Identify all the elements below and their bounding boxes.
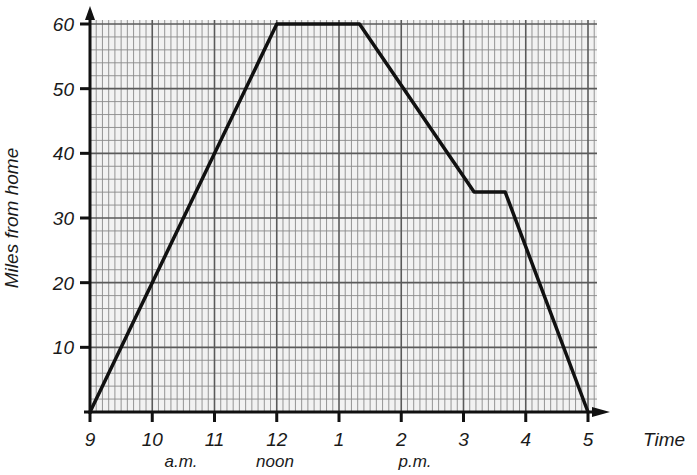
y-tick-label: 50 <box>53 79 75 100</box>
x-tick-label: 5 <box>583 429 594 450</box>
x-ticks: 910111212345 <box>85 412 594 450</box>
y-axis-label: Miles from home <box>1 148 22 288</box>
y-tick-label: 10 <box>53 337 75 358</box>
x-tick-label: 9 <box>85 429 96 450</box>
y-tick-label: 30 <box>53 208 75 229</box>
x-tick-label: 1 <box>334 429 345 450</box>
x-axis-arrow-icon <box>592 407 610 417</box>
am-label: a.m. <box>164 452 197 471</box>
pm-label: p.m. <box>397 452 431 471</box>
distance-time-chart: 102030405060 910111212345 Miles from hom… <box>0 0 697 475</box>
x-tick-label: 4 <box>520 429 531 450</box>
plot-area <box>90 20 597 412</box>
y-tick-label: 60 <box>53 14 75 35</box>
x-axis-label: Time <box>643 429 685 450</box>
y-ticks: 102030405060 <box>52 14 90 358</box>
y-axis-arrow-icon <box>85 6 95 20</box>
y-tick-label: 20 <box>52 273 75 294</box>
x-tick-label: 12 <box>266 429 288 450</box>
x-tick-label: 2 <box>395 429 407 450</box>
x-tick-label: 10 <box>142 429 164 450</box>
noon-label: noon <box>256 452 294 471</box>
x-tick-label: 11 <box>205 429 225 450</box>
y-tick-label: 40 <box>53 143 75 164</box>
x-tick-label: 3 <box>458 429 469 450</box>
